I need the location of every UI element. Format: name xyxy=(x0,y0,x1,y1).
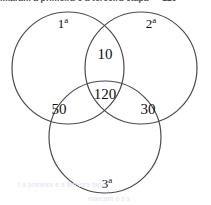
venn-set-label-3-sup: a xyxy=(108,175,112,185)
venn-set-label-2-sup: a xyxy=(152,15,156,25)
venn-region-value-set1-set2-set3: 120 xyxy=(85,87,125,102)
venn-region-value-set1-set2: 10 xyxy=(90,47,120,62)
venn-set-label-3: 3a xyxy=(92,177,122,190)
venn-diagram-canvas: imaram a primeira e a terceira etapa — 1… xyxy=(0,0,211,205)
venn-circles-group xyxy=(0,0,211,205)
venn-set-label-1: 1a xyxy=(48,17,78,30)
venn-set-label-2: 2a xyxy=(136,17,166,30)
venn-set-label-1-sup: a xyxy=(64,15,68,25)
venn-region-value-set1-set3: 50 xyxy=(44,102,74,117)
venn-region-value-set2-set3: 30 xyxy=(133,102,163,117)
